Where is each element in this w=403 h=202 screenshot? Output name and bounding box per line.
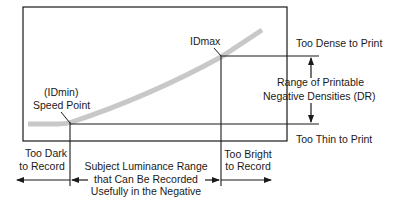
range-label-line1: Range of Printable — [277, 76, 364, 88]
too-bright-label-line2: to Record — [225, 160, 271, 172]
idmin-label-line1: (IDmin) — [44, 86, 78, 98]
idmax-label: IDmax — [190, 35, 221, 47]
plot-frame — [23, 7, 287, 141]
too-thin-label: Too Thin to Print — [296, 133, 372, 145]
idmax-leader — [214, 48, 221, 56]
idmin-label-line2: Speed Point — [33, 99, 90, 111]
luminance-label-line3: Usefully in the Negative — [91, 185, 201, 197]
luminance-label-line2: that Can Be Recorded — [94, 173, 198, 185]
too-dark-label-line1: Too Dark — [25, 147, 68, 159]
too-dark-label-line2: to Record — [19, 160, 65, 172]
luminance-label-line1: Subject Luminance Range — [84, 160, 207, 172]
too-dense-label: Too Dense to Print — [296, 37, 382, 49]
too-bright-label-line1: Too Bright — [224, 148, 271, 160]
range-label-line2: Negative Densities (DR) — [263, 90, 376, 102]
characteristic-curve-diagram: IDmax (IDmin) Speed Point Too Dense to P… — [0, 0, 403, 202]
